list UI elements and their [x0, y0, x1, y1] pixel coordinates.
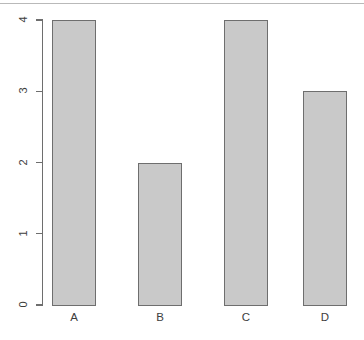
y-tick-mark	[36, 91, 43, 92]
bar-b	[138, 163, 182, 307]
bar-d	[303, 91, 347, 306]
y-tick-mark	[36, 233, 43, 234]
y-tick-mark	[36, 19, 43, 20]
y-tick-mark	[36, 304, 43, 305]
x-tick-label: A	[52, 312, 96, 324]
x-tick-label: D	[303, 312, 347, 324]
plot-area: 01234 ABCD	[0, 0, 364, 340]
bar-chart-figure: 01234 ABCD	[0, 0, 364, 340]
bar-c	[224, 20, 268, 306]
y-tick-label: 1	[18, 224, 29, 242]
y-tick-label: 4	[18, 11, 29, 29]
bar-a	[52, 20, 96, 306]
y-tick-label: 2	[18, 153, 29, 171]
x-tick-label: B	[138, 312, 182, 324]
y-tick-mark	[36, 162, 43, 163]
y-tick-label: 0	[18, 296, 29, 314]
y-tick-label: 3	[18, 82, 29, 100]
x-tick-label: C	[224, 312, 268, 324]
